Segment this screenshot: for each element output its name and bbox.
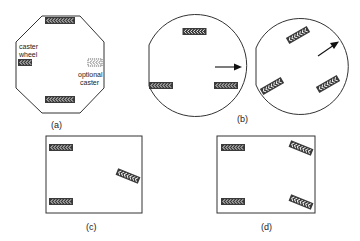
wheel-top-rotated — [286, 26, 310, 44]
panel-d: (d) — [217, 136, 315, 232]
wheel-bottom-right — [214, 82, 238, 89]
caption-b: (b) — [237, 114, 248, 124]
arrowhead-icon — [330, 42, 339, 50]
panel-a: caster wheel optional caster (a) — [16, 16, 104, 130]
top-drive-wheel — [45, 17, 75, 24]
wheel-bottom-left — [49, 198, 73, 205]
heading-arrow-diagonal — [318, 45, 334, 56]
caption-a: (a) — [51, 120, 62, 130]
caster-wheel — [18, 59, 32, 66]
wheel-bottom-left-rotated — [260, 77, 284, 95]
steered-wheel-bottom-right — [289, 194, 314, 209]
wheel-bottom-right-rotated — [316, 75, 340, 93]
bottom-drive-wheel — [45, 96, 75, 103]
robot-wheel-configurations-diagram: caster wheel optional caster (a) (b) (c) — [0, 0, 360, 241]
wheel-top-left — [221, 144, 245, 151]
optional-label-line2: caster — [80, 79, 100, 86]
steered-wheel-top-right — [289, 140, 314, 155]
caster-label-line1: caster — [19, 43, 39, 50]
caster-label-line2: wheel — [18, 51, 38, 58]
optional-label-line1: optional — [78, 71, 103, 79]
wheel-top-left — [49, 144, 73, 151]
panel-c: (c) — [46, 136, 142, 232]
wheel-bottom-left — [149, 82, 173, 89]
optional-caster-wheel — [88, 59, 102, 66]
wheel-bottom-left — [221, 198, 245, 205]
panel-b: (b) — [149, 15, 348, 125]
steered-wheel-right — [116, 168, 141, 183]
wheel-top — [183, 28, 207, 35]
caption-d: (d) — [261, 222, 272, 232]
arrowhead-icon — [234, 64, 242, 71]
caption-c: (c) — [86, 222, 97, 232]
